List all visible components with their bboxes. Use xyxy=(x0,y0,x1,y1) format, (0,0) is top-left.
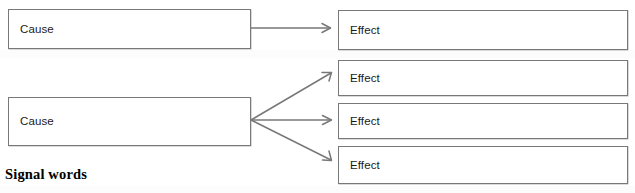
effect-box-1-label: Effect xyxy=(339,24,380,37)
effect-box-2-label: Effect xyxy=(339,72,380,85)
cause-box-2-label: Cause xyxy=(9,115,54,128)
cause-box-2: Cause xyxy=(8,97,251,146)
cause-effect-diagram: Cause Effect Cause Effect Effect Effect … xyxy=(0,0,635,193)
arrow-cause2-to-effect4 xyxy=(251,120,332,161)
arrow-cause2-to-effect2 xyxy=(251,73,332,121)
effect-box-3: Effect xyxy=(338,103,628,139)
arrow-cause2-to-effect3 xyxy=(251,116,332,125)
effect-box-4: Effect xyxy=(338,146,628,184)
cause-box-1-label: Cause xyxy=(9,23,54,36)
arrow-cause1-to-effect1 xyxy=(251,24,331,33)
effect-box-1: Effect xyxy=(338,10,628,50)
effect-box-4-label: Effect xyxy=(339,159,380,172)
effect-box-2: Effect xyxy=(338,60,628,96)
effect-box-3-label: Effect xyxy=(339,115,380,128)
signal-words-caption: Signal words xyxy=(5,166,87,183)
cause-box-1: Cause xyxy=(8,9,251,49)
